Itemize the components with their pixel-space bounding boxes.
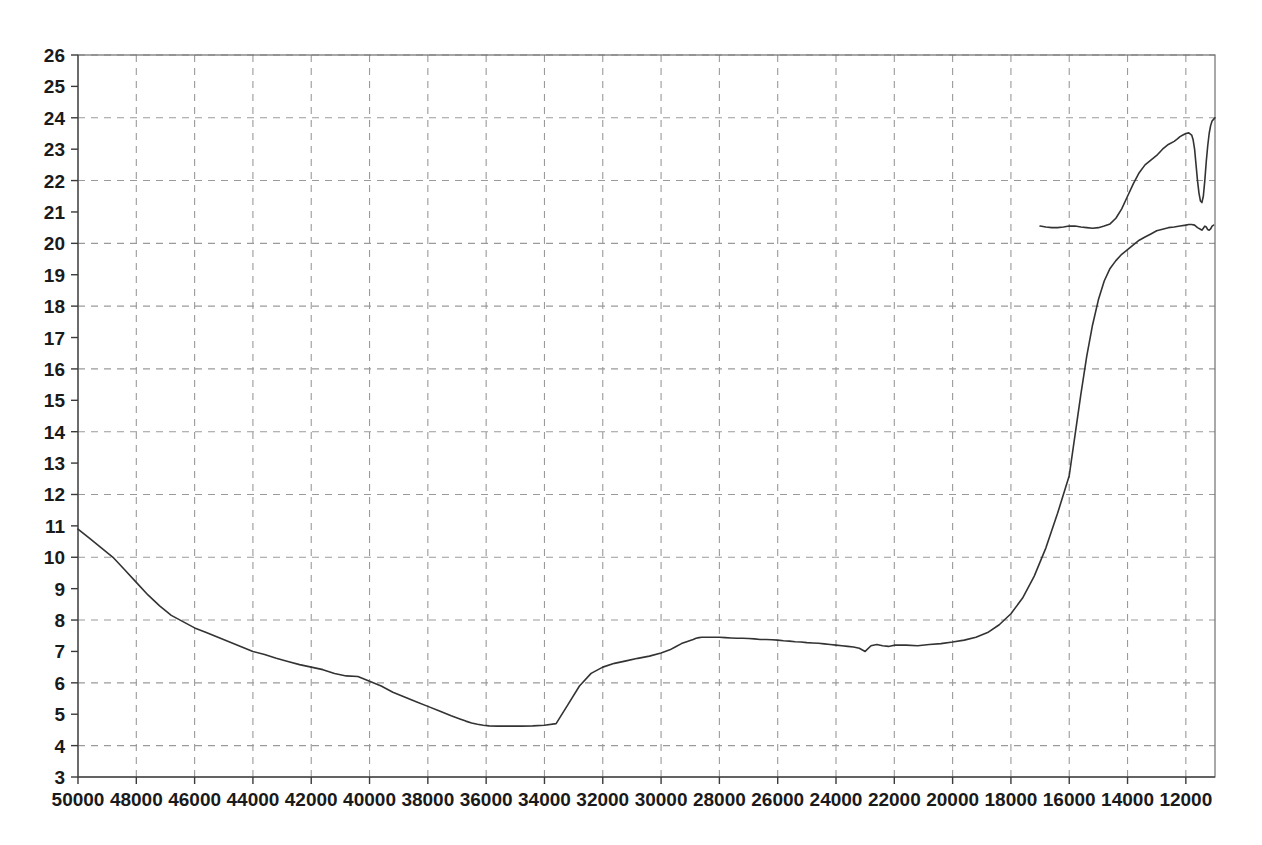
y-tick-label: 12 bbox=[44, 484, 65, 505]
y-tick-label: 25 bbox=[44, 76, 66, 97]
x-tick-label: 38000 bbox=[401, 789, 454, 810]
y-tick-label: 22 bbox=[44, 171, 65, 192]
y-tick-label: 16 bbox=[44, 359, 65, 380]
vertical-gridlines bbox=[136, 55, 1186, 777]
y-tick-label: 8 bbox=[54, 610, 65, 631]
y-axis-tick-labels: 2625242322212019181716151413121110987654… bbox=[44, 45, 66, 788]
series-line bbox=[78, 225, 1214, 727]
y-tick-label: 14 bbox=[44, 422, 66, 443]
y-tick-label: 13 bbox=[44, 453, 65, 474]
line-chart: 2625242322212019181716151413121110987654… bbox=[0, 0, 1262, 845]
y-tick-label: 19 bbox=[44, 265, 65, 286]
y-tick-label: 5 bbox=[54, 704, 65, 725]
y-tick-label: 6 bbox=[54, 673, 65, 694]
x-tick-label: 32000 bbox=[576, 789, 629, 810]
y-tick-label: 26 bbox=[44, 45, 65, 66]
x-tick-label: 14000 bbox=[1101, 789, 1154, 810]
x-tick-label: 40000 bbox=[343, 789, 396, 810]
x-axis-ticks bbox=[78, 777, 1186, 784]
x-tick-label: 26000 bbox=[751, 789, 804, 810]
y-tick-label: 17 bbox=[44, 328, 65, 349]
y-tick-label: 24 bbox=[44, 108, 66, 129]
y-tick-label: 18 bbox=[44, 296, 65, 317]
y-tick-label: 23 bbox=[44, 139, 65, 160]
y-tick-label: 9 bbox=[54, 579, 65, 600]
x-tick-label: 46000 bbox=[168, 789, 221, 810]
y-tick-label: 10 bbox=[44, 547, 65, 568]
x-tick-label: 18000 bbox=[985, 789, 1038, 810]
x-tick-label: 48000 bbox=[110, 789, 163, 810]
x-tick-label: 22000 bbox=[868, 789, 921, 810]
y-tick-label: 15 bbox=[44, 390, 66, 411]
x-tick-label: 44000 bbox=[227, 789, 280, 810]
x-tick-label: 30000 bbox=[635, 789, 688, 810]
x-tick-label: 36000 bbox=[460, 789, 513, 810]
x-tick-label: 24000 bbox=[810, 789, 863, 810]
data-series bbox=[78, 118, 1215, 726]
horizontal-gridlines bbox=[78, 55, 1215, 746]
y-tick-label: 21 bbox=[44, 202, 66, 223]
chart-container: 2625242322212019181716151413121110987654… bbox=[0, 0, 1262, 845]
y-tick-label: 3 bbox=[54, 767, 65, 788]
plot-frame bbox=[78, 55, 1215, 777]
plot-border bbox=[78, 55, 1215, 777]
x-tick-label: 20000 bbox=[926, 789, 979, 810]
y-tick-label: 7 bbox=[54, 641, 65, 662]
x-tick-label: 16000 bbox=[1043, 789, 1096, 810]
x-tick-label: 28000 bbox=[693, 789, 746, 810]
y-tick-label: 11 bbox=[45, 516, 66, 537]
x-tick-label: 50000 bbox=[52, 789, 105, 810]
x-axis-tick-labels: 5000048000460004400042000400003800036000… bbox=[52, 789, 1213, 810]
x-tick-label: 12000 bbox=[1159, 789, 1212, 810]
y-axis-ticks bbox=[71, 55, 78, 777]
y-tick-label: 20 bbox=[44, 233, 65, 254]
x-tick-label: 34000 bbox=[518, 789, 571, 810]
y-tick-label: 4 bbox=[54, 736, 65, 757]
x-tick-label: 42000 bbox=[285, 789, 338, 810]
